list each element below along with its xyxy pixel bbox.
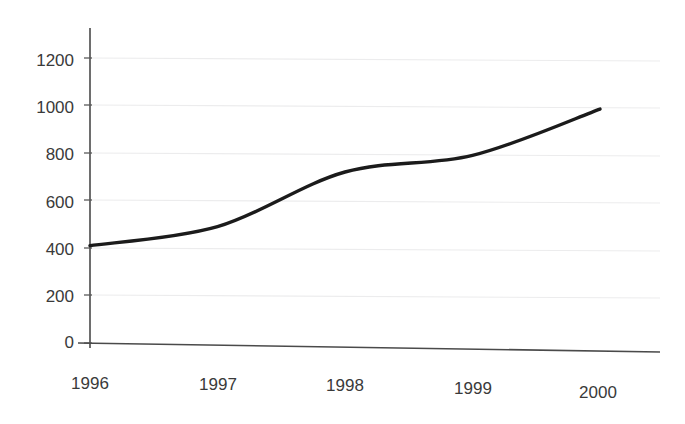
y-tick-label-0: 0 [65, 333, 74, 352]
x-tick-label-2000: 2000 [579, 383, 617, 402]
line-chart-figure: 1200 1000 800 600 400 200 0 1996 1997 19… [0, 0, 685, 424]
x-tick-label-1996: 1996 [71, 374, 109, 393]
chart-background [0, 0, 685, 424]
y-tick-label-600: 600 [46, 193, 74, 212]
x-tick-label-1997: 1997 [199, 375, 237, 394]
y-tick-label-200: 200 [46, 287, 74, 306]
y-tick-label-400: 400 [46, 240, 74, 259]
y-tick-label-1200: 1200 [36, 51, 74, 70]
x-tick-label-1999: 1999 [454, 379, 492, 398]
y-tick-label-1000: 1000 [36, 98, 74, 117]
x-tick-label-1998: 1998 [326, 376, 364, 395]
chart-canvas: 1200 1000 800 600 400 200 0 1996 1997 19… [0, 0, 685, 424]
y-tick-label-800: 800 [46, 145, 74, 164]
